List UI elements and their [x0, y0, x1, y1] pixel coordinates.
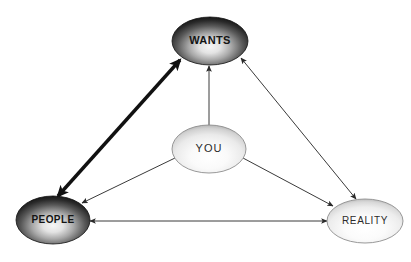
- node-reality-label: REALITY: [342, 215, 388, 226]
- diagram-canvas: WANTS YOU PEOPLE REALITY: [0, 0, 411, 262]
- relationship-diagram: WANTS YOU PEOPLE REALITY: [0, 0, 411, 262]
- edge-people-wants: [58, 60, 180, 196]
- node-wants-label: WANTS: [189, 34, 231, 46]
- node-people[interactable]: PEOPLE: [16, 196, 90, 244]
- node-layer: WANTS YOU PEOPLE REALITY: [16, 17, 403, 244]
- node-reality[interactable]: REALITY: [327, 199, 403, 243]
- node-wants[interactable]: WANTS: [172, 17, 248, 65]
- edge-wants-reality: [241, 58, 356, 199]
- edge-you-reality: [243, 158, 333, 206]
- node-you[interactable]: YOU: [172, 125, 246, 173]
- node-people-label: PEOPLE: [32, 214, 75, 225]
- node-you-label: YOU: [196, 142, 223, 154]
- edge-you-people: [82, 158, 175, 203]
